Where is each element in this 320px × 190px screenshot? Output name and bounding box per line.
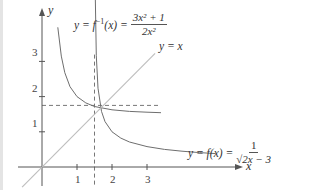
function-label: y = f(x) = 1 √2x − 3 <box>188 140 271 165</box>
f-denominator: √2x − 3 <box>236 153 271 165</box>
inverse-superscript: −1 <box>96 17 105 26</box>
f-lhs: y = f(x) = <box>188 147 233 159</box>
inverse-function-label: y = f −1 (x) = 3x² + 1 2x² <box>74 12 167 37</box>
reference-dashed-lines <box>42 54 161 184</box>
y-tick-label-2: 2 <box>32 83 38 94</box>
y-tick-label-3: 3 <box>32 47 38 58</box>
inverse-fraction: 3x² + 1 2x² <box>131 12 167 37</box>
x-tick-label-3: 3 <box>145 174 151 185</box>
y-axis-arrow-icon <box>39 8 45 16</box>
inverse-lhs: y = f <box>74 19 96 31</box>
identity-line-label: y = x <box>159 41 183 53</box>
inverse-denominator: 2x² <box>142 25 156 37</box>
y-axis-label: y <box>48 4 53 16</box>
f-fraction: 1 √2x − 3 <box>236 140 271 165</box>
inverse-numerator: 3x² + 1 <box>131 12 167 25</box>
x-tick-label-2: 2 <box>110 174 116 185</box>
x-tick-label-1: 1 <box>75 174 81 185</box>
y-tick-label-1: 1 <box>32 118 38 129</box>
inverse-arg: (x) = <box>104 19 127 31</box>
f-numerator: 1 <box>249 140 259 153</box>
